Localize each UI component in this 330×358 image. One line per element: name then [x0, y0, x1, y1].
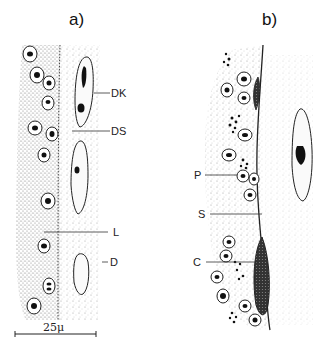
annotation-ds: DS — [111, 125, 126, 137]
annotation-d: D — [110, 256, 118, 268]
scale-bar-label: 25μ — [43, 321, 64, 334]
scale-bar: 25μ — [15, 321, 96, 337]
annotation-s: S — [198, 208, 205, 220]
elongated-cell-d — [74, 254, 89, 295]
panel-a: a) — [15, 10, 127, 337]
histology-figure: a) — [0, 0, 330, 358]
annotation-p: P — [194, 169, 201, 181]
annotation-l: L — [113, 226, 119, 238]
annotation-dk: DK — [111, 87, 127, 99]
large-oval-cell — [292, 109, 312, 201]
panel-a-label: a) — [69, 10, 84, 29]
panel-b: b) — [193, 10, 313, 330]
annotation-c: C — [193, 256, 201, 268]
panel-b-label: b) — [262, 10, 277, 29]
